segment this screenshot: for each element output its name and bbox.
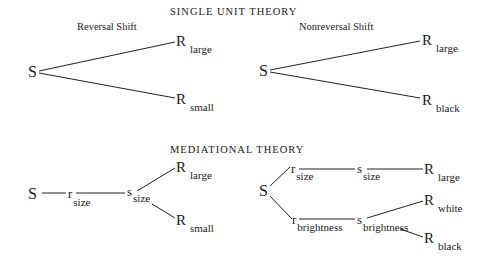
- med-reversal-stimulus: S: [28, 186, 37, 202]
- su-nonreversal-response-large: Rlarge: [422, 32, 458, 48]
- med-reversal-response-large: Rlarge: [176, 159, 212, 175]
- med-nonreversal-response-white: Rwhite: [424, 192, 462, 208]
- su-reversal-response-small: Rsmall: [176, 91, 214, 107]
- med-reversal-r-size: rsize: [68, 185, 90, 201]
- med-nonreversal-r-brightness: rbrightness: [292, 211, 343, 227]
- med-reversal-response-small: Rsmall: [176, 212, 214, 228]
- su-reversal-response-large: Rlarge: [176, 33, 212, 49]
- med-reversal-s-size: ssize: [127, 183, 150, 199]
- su-nonreversal-stimulus: S: [259, 63, 268, 79]
- mediational-title: MEDIATIONAL THEORY: [170, 145, 304, 156]
- med-nonreversal-s-brightness: sbrightness: [357, 211, 408, 227]
- single-unit-title: SINGLE UNIT THEORY: [170, 7, 297, 18]
- med-nonreversal-stimulus: S: [259, 183, 268, 199]
- su-reversal-stimulus: S: [28, 64, 37, 80]
- med-nonreversal-s-size: ssize: [357, 160, 380, 176]
- med-nonreversal-r-size: rsize: [291, 160, 313, 176]
- nonreversal-shift-label: Nonreversal Shift: [299, 22, 373, 33]
- med-nonreversal-response-large: Rlarge: [424, 161, 460, 177]
- med-nonreversal-response-black: Rblack: [424, 230, 462, 246]
- reversal-shift-label: Reversal Shift: [77, 22, 137, 33]
- connector-lines: [0, 0, 487, 271]
- su-nonreversal-response-black: Rblack: [422, 92, 460, 108]
